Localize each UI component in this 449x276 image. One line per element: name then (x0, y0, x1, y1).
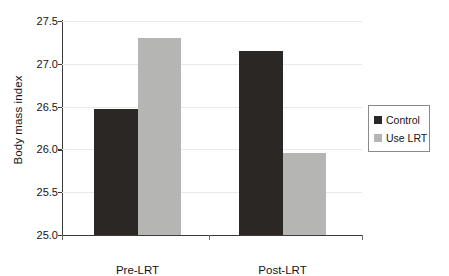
chart-legend: Control Use LRT (368, 105, 430, 152)
x-axis-line (62, 235, 363, 236)
y-tick-label: 27.0 (24, 58, 58, 70)
x-tick-mark (362, 235, 363, 240)
bar-pre-lrt-use-lrt[interactable] (138, 38, 182, 235)
bar-post-lrt-control[interactable] (239, 51, 283, 235)
plot-area: Pre-LRTPost-LRT (62, 21, 362, 235)
y-tick-label: 25.5 (24, 186, 58, 198)
y-tick-label: 27.5 (24, 15, 58, 27)
gridline (62, 107, 362, 108)
x-category-label-pre-lrt: Pre-LRT (116, 264, 159, 276)
bar-post-lrt-use-lrt[interactable] (283, 153, 327, 235)
legend-swatch-control-icon (374, 116, 382, 124)
y-axis-tick-labels: 25.025.526.026.527.027.5 (22, 0, 58, 276)
legend-entry-control: Control (374, 112, 429, 128)
x-category-label-post-lrt: Post-LRT (258, 264, 306, 276)
y-tick-mark (58, 64, 62, 65)
bar-chart-figure: Body mass index 25.025.526.026.527.027.5… (0, 0, 449, 276)
y-tick-label: 26.0 (24, 143, 58, 155)
x-tick-mark (62, 235, 63, 240)
legend-label-use-lrt: Use LRT (386, 132, 427, 144)
legend-label-control: Control (386, 114, 420, 126)
y-tick-mark (58, 107, 62, 108)
y-tick-mark (58, 21, 62, 22)
y-tick-label: 25.0 (24, 229, 58, 241)
gridline (62, 64, 362, 65)
y-tick-mark (58, 192, 62, 193)
y-tick-mark (58, 149, 62, 150)
bar-pre-lrt-control[interactable] (94, 109, 138, 235)
y-tick-label: 26.5 (24, 101, 58, 113)
legend-swatch-use-lrt-icon (374, 134, 382, 142)
x-tick-mark (209, 235, 210, 240)
legend-entry-use-lrt: Use LRT (374, 130, 429, 146)
gridline (62, 21, 362, 22)
